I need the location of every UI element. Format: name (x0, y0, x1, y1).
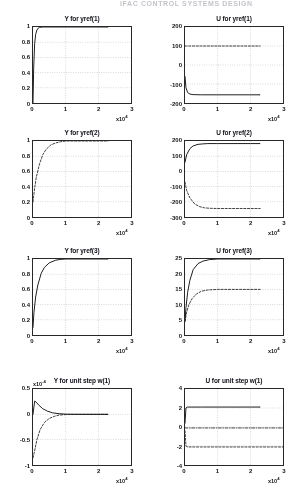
y-tick-label: 0.2 (8, 317, 30, 323)
x-tick-label: 3 (282, 220, 285, 226)
y-tick-label: 0.6 (8, 286, 30, 292)
x-axis-multiplier: x104 (268, 346, 280, 354)
x-tick-label: 2 (249, 468, 252, 474)
y-tick-label: -100 (152, 184, 182, 190)
y-tick-label: 0.6 (8, 54, 30, 60)
x-tick-label: 0 (30, 106, 33, 112)
x-tick-label: 0 (182, 338, 185, 344)
y-tick-label: 0.4 (8, 302, 30, 308)
chart-y-unit-step-w1: Y for unit step w(1)-1-0.500.50123x104x1… (8, 368, 140, 488)
y-tick-label: 0 (152, 424, 182, 430)
chart-title-u-yref-2: U for yref(2) (184, 129, 284, 136)
y-tick-label: 0.8 (8, 39, 30, 45)
chart-title-y-yref-2: Y for yref(2) (32, 129, 132, 136)
x-tick-label: 3 (282, 468, 285, 474)
y-tick-label: -1 (8, 463, 30, 469)
chart-title-u-yref-1: U for yref(1) (184, 15, 284, 22)
y-tick-label: -2 (152, 444, 182, 450)
y-tick-label: 0 (8, 411, 30, 417)
chart-y-yref-3: Y for yref(3)00.20.40.60.810123x104 (8, 244, 140, 356)
y-tick-label: -0.5 (8, 437, 30, 443)
x-tick-label: 0 (30, 468, 33, 474)
y-tick-label: 0.4 (8, 70, 30, 76)
y-tick-label: 100 (152, 153, 182, 159)
x-tick-label: 3 (282, 106, 285, 112)
chart-u-yref-2: U for yref(2)-300-200-10001002000123x104 (152, 128, 292, 238)
x-tick-label: 0 (30, 220, 33, 226)
y-tick-label: 5 (152, 317, 182, 323)
plot-area-u-yref-2 (184, 140, 284, 218)
x-tick-label: 2 (97, 106, 100, 112)
y-tick-label: -100 (152, 82, 182, 88)
x-tick-label: 2 (97, 338, 100, 344)
y-tick-label: -300 (152, 215, 182, 221)
plot-area-y-unit-step-w1 (32, 388, 132, 466)
y-tick-label: 0.6 (8, 168, 30, 174)
chart-title-y-yref-3: Y for yref(3) (32, 247, 132, 254)
y-tick-label: 0 (8, 333, 30, 339)
y-tick-label: 0 (152, 168, 182, 174)
plot-area-u-yref-3 (184, 258, 284, 336)
plot-area-u-yref-1 (184, 26, 284, 104)
y-tick-label: 0 (152, 333, 182, 339)
x-tick-label: 0 (182, 220, 185, 226)
chart-u-unit-step-w1: U for unit step w(1)-4-20240123x104 (152, 368, 292, 488)
x-tick-label: 1 (216, 468, 219, 474)
x-axis-multiplier: x104 (116, 114, 128, 122)
x-axis-multiplier: x104 (268, 476, 280, 484)
chart-y-yref-2: Y for yref(2)00.20.40.60.810123x104 (8, 128, 140, 238)
x-tick-label: 3 (130, 220, 133, 226)
x-tick-label: 3 (130, 106, 133, 112)
y-tick-label: -200 (152, 101, 182, 107)
chart-title-y-unit-step-w1: Y for unit step w(1) (32, 377, 132, 384)
x-tick-label: 3 (130, 468, 133, 474)
x-tick-label: 2 (249, 220, 252, 226)
x-tick-label: 1 (64, 220, 67, 226)
x-tick-label: 0 (182, 468, 185, 474)
chart-title-y-yref-1: Y for yref(1) (32, 15, 132, 22)
y-tick-label: 200 (152, 137, 182, 143)
x-tick-label: 0 (30, 338, 33, 344)
x-tick-label: 1 (216, 106, 219, 112)
plot-area-u-unit-step-w1 (184, 388, 284, 466)
x-tick-label: 2 (249, 338, 252, 344)
page-running-header: IFAC CONTROL SYSTEMS DESIGN (120, 0, 295, 7)
y-tick-label: 0.8 (8, 271, 30, 277)
x-tick-label: 2 (249, 106, 252, 112)
y-tick-label: 0.2 (8, 85, 30, 91)
x-tick-label: 0 (182, 106, 185, 112)
y-tick-label: 2 (152, 405, 182, 411)
y-tick-label: 0.4 (8, 184, 30, 190)
y-tick-label: 1 (8, 137, 30, 143)
y-tick-label: 0 (152, 62, 182, 68)
y-tick-label: 0.5 (8, 385, 30, 391)
y-tick-label: -200 (152, 199, 182, 205)
y-tick-label: -4 (152, 463, 182, 469)
y-tick-label: 1 (8, 23, 30, 29)
y-tick-label: 0 (8, 101, 30, 107)
x-tick-label: 1 (216, 220, 219, 226)
x-axis-multiplier: x104 (268, 114, 280, 122)
y-tick-label: 0.8 (8, 153, 30, 159)
x-tick-label: 2 (97, 468, 100, 474)
chart-title-u-unit-step-w1: U for unit step w(1) (184, 377, 284, 384)
chart-y-yref-1: Y for yref(1)00.20.40.60.810123x104 (8, 14, 140, 124)
y-tick-label: 15 (152, 286, 182, 292)
x-tick-label: 3 (282, 338, 285, 344)
x-tick-label: 2 (97, 220, 100, 226)
x-tick-label: 1 (216, 338, 219, 344)
x-axis-multiplier: x104 (116, 228, 128, 236)
plot-area-y-yref-3 (32, 258, 132, 336)
x-tick-label: 3 (130, 338, 133, 344)
y-tick-label: 25 (152, 255, 182, 261)
y-tick-label: 1 (8, 255, 30, 261)
x-axis-multiplier: x104 (116, 346, 128, 354)
chart-u-yref-1: U for yref(1)-200-10001002000123x104 (152, 14, 292, 124)
plot-area-y-yref-1 (32, 26, 132, 104)
x-tick-label: 1 (64, 468, 67, 474)
y-tick-label: 20 (152, 271, 182, 277)
figure-grid: Y for yref(1)00.20.40.60.810123x104U for… (0, 10, 297, 498)
y-tick-label: 10 (152, 302, 182, 308)
y-tick-label: 4 (152, 385, 182, 391)
y-axis-multiplier: x10-4 (33, 379, 46, 387)
